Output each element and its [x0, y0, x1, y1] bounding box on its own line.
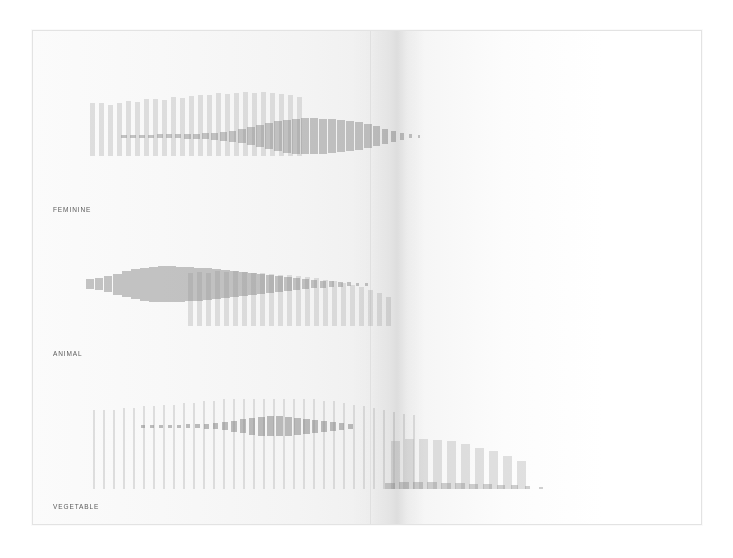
bar-dark [113, 274, 122, 295]
bar-light [517, 461, 526, 489]
bar-light [123, 408, 125, 489]
bar-light [483, 484, 492, 489]
bar-dark [194, 268, 203, 301]
bar-dark [283, 120, 291, 153]
bar-dark [339, 423, 344, 430]
bar-light [525, 486, 530, 489]
bar-light [183, 403, 185, 489]
bar-dark [176, 267, 185, 302]
bar-light [180, 98, 185, 156]
bar-dark [240, 419, 246, 433]
bar-light [213, 401, 215, 489]
bar-light [263, 399, 265, 489]
bar-dark [193, 134, 200, 139]
bar-light [273, 399, 275, 489]
bar-light [225, 94, 230, 156]
bar-light [497, 485, 505, 489]
bar-light [198, 95, 203, 156]
bar-dark [229, 131, 236, 142]
bar-light [90, 103, 95, 156]
bar-light [117, 103, 122, 156]
bar-dark [310, 118, 318, 154]
bar-dark [337, 120, 345, 152]
bar-light [163, 405, 165, 489]
bar-dark [121, 135, 127, 138]
bar-dark [248, 273, 257, 295]
bar-dark [204, 424, 209, 429]
bar-dark [122, 271, 131, 297]
bar-dark [158, 266, 167, 302]
bar-dark [86, 279, 94, 289]
bar-dark [230, 271, 239, 297]
bar-dark [338, 282, 343, 287]
bar-dark [175, 134, 181, 138]
row-label-feminine: FEMININE [53, 206, 91, 213]
bar-light [343, 403, 345, 489]
bar-light [153, 406, 155, 489]
bar-dark [131, 269, 140, 299]
bar-light [469, 484, 478, 489]
scanned-book-spread: FEMININE ANIMAL VEGETABLE [32, 30, 702, 525]
bar-light [193, 403, 195, 489]
bar-light [303, 399, 305, 489]
bar-dark [292, 119, 300, 154]
bar-light [207, 95, 212, 156]
bar-dark [256, 125, 264, 147]
bar-light [153, 99, 158, 156]
bar-dark [159, 425, 163, 428]
bar-light [108, 105, 113, 156]
bar-light [113, 410, 115, 489]
bar-dark [166, 134, 172, 138]
bar-dark [276, 416, 283, 436]
bar-dark [202, 133, 209, 139]
bar-dark [302, 279, 309, 289]
bar-light [253, 399, 255, 489]
bar-dark [285, 417, 292, 436]
bar-dark [257, 274, 265, 294]
bar-dark [311, 280, 317, 288]
bar-dark [328, 119, 336, 153]
row-label-animal: ANIMAL [53, 350, 83, 357]
bar-dark [203, 268, 212, 300]
bar-dark [148, 135, 154, 138]
bar-light [441, 483, 451, 489]
bar-dark [149, 267, 158, 302]
bar-dark [141, 425, 145, 428]
bar-dark [320, 281, 326, 288]
bar-light [333, 401, 335, 489]
bar-dark [294, 418, 301, 435]
bar-light [144, 99, 149, 156]
bar-light [99, 103, 104, 156]
bar-light [283, 399, 285, 489]
bar-dark [211, 133, 218, 140]
bar-light [135, 102, 140, 156]
bar-light [133, 408, 135, 489]
bar-dark [330, 422, 336, 431]
bar-light [332, 281, 337, 326]
bar-dark [321, 421, 327, 432]
bar-dark [177, 425, 181, 428]
bar-light [126, 101, 131, 156]
bar-dark [213, 423, 218, 429]
bar-dark [130, 135, 136, 138]
bar-dark [221, 270, 230, 298]
bar-light [189, 96, 194, 156]
bar-light [171, 97, 176, 156]
bar-light [162, 100, 167, 156]
bar-light [93, 410, 95, 489]
bar-dark [249, 418, 255, 435]
bar-dark [212, 269, 221, 299]
bar-light [511, 485, 518, 489]
bar-light [243, 92, 248, 156]
bar-dark [157, 134, 163, 138]
bar-dark [168, 425, 172, 428]
bar-light [203, 401, 205, 489]
bar-light [216, 93, 221, 156]
bar-dark [319, 119, 327, 154]
book-gutter-shadow [351, 31, 425, 524]
bar-light [143, 406, 145, 489]
bar-dark [238, 129, 246, 143]
bar-dark [303, 419, 310, 434]
bar-light [323, 401, 325, 489]
bar-light [173, 405, 175, 489]
